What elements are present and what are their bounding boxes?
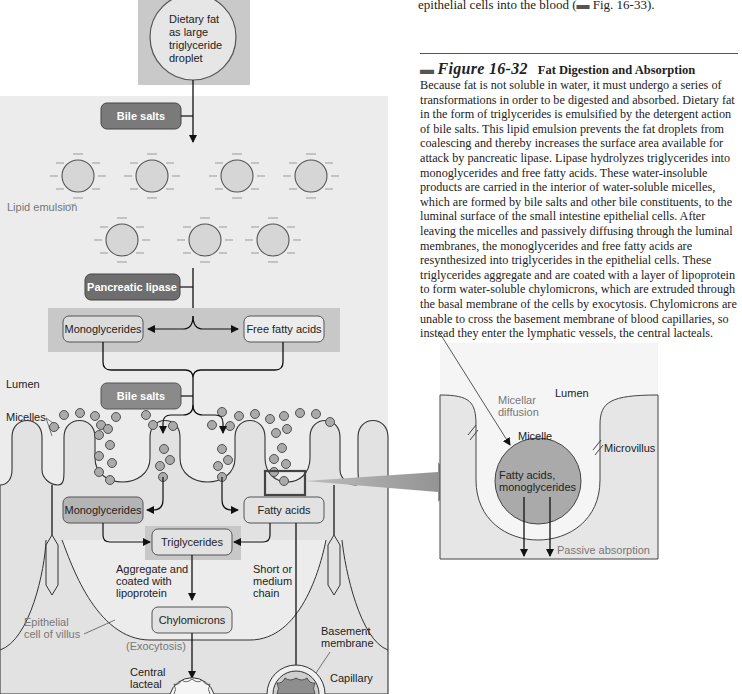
svg-text:Epithelial: Epithelial bbox=[24, 616, 69, 628]
svg-text:Chylomicrons: Chylomicrons bbox=[159, 614, 226, 626]
svg-text:membrane: membrane bbox=[321, 637, 374, 649]
svg-text:Monoglycerides: Monoglycerides bbox=[64, 504, 142, 516]
svg-text:medium: medium bbox=[253, 575, 292, 587]
caption-divider bbox=[420, 53, 738, 54]
svg-text:Short or: Short or bbox=[253, 563, 292, 575]
svg-text:Central: Central bbox=[130, 666, 165, 678]
lipid-emulsion-label: Lipid emulsion bbox=[7, 201, 77, 213]
svg-text:chain: chain bbox=[253, 587, 279, 599]
svg-text:cell of villus: cell of villus bbox=[24, 628, 81, 640]
svg-text:Pancreatic lipase: Pancreatic lipase bbox=[87, 281, 177, 293]
svg-text:Micellar: Micellar bbox=[498, 394, 536, 406]
previous-paragraph-line: epithelial cells into the blood (▬ Fig. … bbox=[418, 0, 655, 13]
svg-text:lacteal: lacteal bbox=[130, 678, 162, 690]
svg-text:Bile salts: Bile salts bbox=[117, 390, 165, 402]
figure-marker-icon: ▬ bbox=[420, 62, 438, 77]
cross-ref-icon: ▬ bbox=[577, 0, 593, 12]
svg-text:Triglycerides: Triglycerides bbox=[161, 536, 223, 548]
svg-text:Lumen: Lumen bbox=[555, 387, 589, 399]
svg-text:Fatty acids,: Fatty acids, bbox=[499, 469, 555, 481]
svg-text:Monoglycerides: Monoglycerides bbox=[64, 323, 142, 335]
lumen-label: Lumen bbox=[6, 378, 40, 390]
svg-text:Fatty acids: Fatty acids bbox=[257, 504, 311, 516]
svg-text:Bile salts: Bile salts bbox=[117, 110, 165, 122]
svg-text:triglyceride: triglyceride bbox=[169, 39, 222, 51]
figure-caption: Because fat is not soluble in water, it … bbox=[420, 78, 740, 341]
figure-title: Fat Digestion and Absorption bbox=[538, 63, 695, 77]
svg-text:coated with: coated with bbox=[116, 575, 172, 587]
svg-text:droplet: droplet bbox=[169, 52, 203, 64]
svg-text:as large: as large bbox=[169, 26, 208, 38]
svg-text:Microvillus: Microvillus bbox=[604, 442, 656, 454]
svg-text:Micelle: Micelle bbox=[518, 430, 552, 442]
figure-heading: ▬ Figure 16-32Fat Digestion and Absorpti… bbox=[420, 60, 695, 78]
svg-text:Free fatty acids: Free fatty acids bbox=[246, 323, 322, 335]
svg-text:Capillary: Capillary bbox=[330, 672, 373, 684]
svg-text:lipoprotein: lipoprotein bbox=[116, 587, 167, 599]
svg-text:Dietary fat: Dietary fat bbox=[169, 13, 219, 25]
figure-reference-link[interactable]: Fig. 16-33). bbox=[593, 0, 655, 12]
svg-text:diffusion: diffusion bbox=[498, 406, 539, 418]
svg-text:Basement: Basement bbox=[321, 625, 371, 637]
svg-text:Passive absorption: Passive absorption bbox=[557, 544, 650, 556]
figure-number: Figure 16-32 bbox=[438, 60, 528, 77]
dietary-fat-label-1: Dietary fat bbox=[169, 13, 219, 25]
svg-text:Aggregate and: Aggregate and bbox=[116, 563, 188, 575]
svg-text:monoglycerides: monoglycerides bbox=[499, 481, 577, 493]
micelle-inset: Lumen Micellar diffusion Micelle Microvi… bbox=[439, 332, 658, 559]
svg-text:(Exocytosis): (Exocytosis) bbox=[126, 640, 186, 652]
